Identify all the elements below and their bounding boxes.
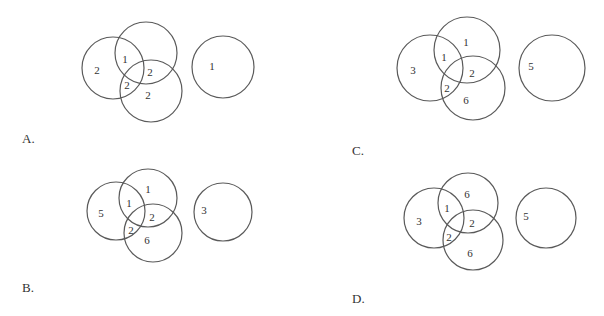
region-count: 2 xyxy=(149,211,155,223)
region-count: 2 xyxy=(145,89,151,101)
option-a: 212221A. xyxy=(22,22,254,146)
set-circle xyxy=(192,36,254,98)
region-count: 6 xyxy=(467,247,473,259)
region-count: 3 xyxy=(410,64,416,76)
region-count: 5 xyxy=(523,210,529,222)
set-circle xyxy=(87,182,145,240)
region-count: 2 xyxy=(444,82,450,94)
region-count: 6 xyxy=(144,234,150,246)
region-count: 2 xyxy=(469,217,475,229)
option-label: A. xyxy=(22,131,35,146)
region-count: 1 xyxy=(441,51,447,63)
region-count: 6 xyxy=(463,94,469,106)
venn-diagram-canvas: 212221A.5112263B.3112265C.3612265D. xyxy=(0,0,604,316)
region-count: 2 xyxy=(128,224,134,236)
region-count: 1 xyxy=(209,60,215,72)
region-count: 2 xyxy=(469,67,475,79)
region-count: 2 xyxy=(124,79,130,91)
option-label: C. xyxy=(352,143,364,158)
region-count: 5 xyxy=(528,60,534,72)
region-count: 2 xyxy=(446,231,452,243)
region-count: 6 xyxy=(464,188,470,200)
region-count: 2 xyxy=(94,64,100,76)
region-count: 1 xyxy=(463,36,469,48)
region-count: 1 xyxy=(145,183,151,195)
region-count: 2 xyxy=(147,66,153,78)
option-c: 3112265C. xyxy=(352,17,585,158)
region-count: 3 xyxy=(201,204,207,216)
region-count: 1 xyxy=(126,197,132,209)
set-circle xyxy=(441,56,505,120)
region-count: 1 xyxy=(444,202,450,214)
set-circle xyxy=(82,37,144,99)
option-label: D. xyxy=(352,291,365,306)
region-count: 3 xyxy=(416,215,422,227)
option-b: 5112263B. xyxy=(22,169,252,295)
option-d: 3612265D. xyxy=(352,173,576,306)
option-label: B. xyxy=(22,280,34,295)
set-circle xyxy=(404,188,464,248)
set-circle xyxy=(397,35,463,101)
set-circle xyxy=(434,17,500,83)
region-count: 1 xyxy=(122,53,128,65)
region-count: 5 xyxy=(98,207,104,219)
